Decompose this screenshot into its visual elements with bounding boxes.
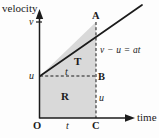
point-label-a: A (92, 11, 100, 22)
x-axis-label: time (137, 112, 157, 123)
velocity-time-figure: velocity time O v u t A B C T R t u v − … (0, 0, 159, 138)
equation-annotation: v − u = at (100, 46, 141, 56)
y-tick-label-u: u (29, 71, 34, 81)
right-height-label-u: u (99, 93, 104, 103)
region-label-rectangle: R (61, 91, 69, 102)
x-tick-label-t: t (66, 121, 69, 131)
point-label-c: C (92, 121, 100, 132)
y-tick-label-v: v (29, 17, 33, 27)
y-axis-label: velocity (2, 3, 37, 14)
region-label-triangle: T (74, 56, 81, 67)
origin-label: O (33, 121, 41, 132)
point-label-b: B (98, 72, 105, 83)
dashed-run-label-t: t (65, 67, 68, 77)
x-axis-arrowhead (125, 114, 135, 121)
graph-canvas (0, 0, 159, 138)
